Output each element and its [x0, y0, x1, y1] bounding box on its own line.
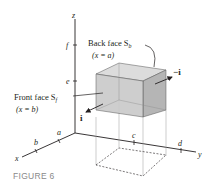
- front-face-label: Front face Sf: [14, 92, 59, 103]
- tick-label-f: f: [66, 41, 70, 50]
- box-front-face: [96, 74, 143, 117]
- tick-label-e: e: [66, 77, 70, 86]
- tick-label-c: c: [132, 131, 136, 140]
- base-shadow: [96, 148, 166, 176]
- figure-diagram: z y x f e a b c d Back face Sb (x = a) F…: [0, 0, 215, 183]
- x-axis-label: x: [14, 154, 19, 163]
- tick-label-a: a: [57, 128, 61, 137]
- figure-caption: FIGURE 6: [13, 171, 55, 181]
- tick-label-d: d: [178, 139, 183, 148]
- vector-neg-i-label: −i: [173, 67, 181, 77]
- tick-label-b: b: [34, 138, 38, 147]
- z-axis-label: z: [71, 11, 76, 20]
- back-face-label: Back face Sb: [88, 38, 132, 49]
- front-face-equation: (x = b): [16, 105, 39, 114]
- x-axis: [22, 133, 75, 157]
- y-axis-label: y: [197, 150, 202, 159]
- back-face-leader: [145, 45, 155, 67]
- box: [96, 63, 166, 117]
- vector-i-label: i: [80, 113, 83, 123]
- back-face-equation: (x = a): [92, 51, 115, 60]
